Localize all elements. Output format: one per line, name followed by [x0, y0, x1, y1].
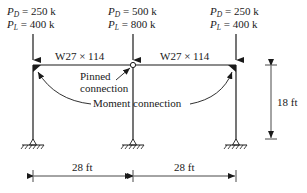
pinned-leader-arrow-icon: [116, 68, 130, 80]
load-label-middle: PD = 500 k PL = 800 k: [107, 5, 157, 32]
moment-leader-right-icon: [190, 72, 232, 104]
frame-diagram: PD = 250 k PL = 400 k PD = 500 k PL = 80…: [0, 0, 307, 193]
span-dimension: [33, 170, 236, 182]
svg-text:PD = 250 k: PD = 250 k: [6, 5, 56, 19]
moment-connection-right-icon: [228, 65, 236, 72]
load-label-right: PD = 250 k PL = 400 k: [209, 5, 259, 32]
beam-label-right: W27 × 114: [160, 50, 210, 62]
svg-text:PL = 800 k: PL = 800 k: [107, 18, 156, 32]
svg-text:PL = 400 k: PL = 400 k: [209, 18, 258, 32]
height-dimension: [265, 65, 277, 139]
svg-text:PD = 500 k: PD = 500 k: [107, 5, 157, 19]
pinned-label-line2: connection: [80, 82, 129, 94]
span-right-label: 28 ft: [174, 161, 194, 173]
svg-text:PL = 400 k: PL = 400 k: [6, 18, 55, 32]
pin-support-left-icon: [21, 139, 44, 149]
beam-label-left: W27 × 114: [55, 50, 105, 62]
moment-label: Moment connection: [93, 97, 182, 109]
pinned-connection-icon: [130, 62, 135, 67]
load-label-left: PD = 250 k PL = 400 k: [6, 5, 56, 32]
height-label: 18 ft: [277, 96, 297, 108]
pin-support-middle-icon: [121, 139, 144, 149]
moment-connection-left-icon: [33, 65, 41, 72]
svg-text:PD = 250 k: PD = 250 k: [209, 5, 259, 19]
pin-support-right-icon: [224, 139, 247, 149]
span-left-label: 28 ft: [72, 161, 92, 173]
pinned-label-line1: Pinned: [80, 70, 111, 82]
